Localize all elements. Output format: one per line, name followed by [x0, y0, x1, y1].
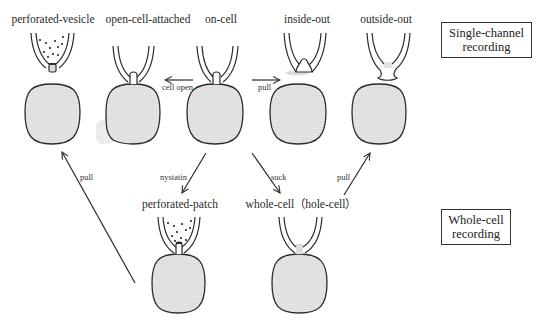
label-pull-top: pull — [258, 83, 271, 92]
single-channel-line2: recording — [446, 40, 527, 54]
cell-inside-out — [270, 84, 326, 144]
cell-perforated-patch — [152, 254, 205, 313]
label-on-cell: on-cell — [205, 14, 237, 26]
patch-clamp-configurations-diagram: perforated-vesicle open-cell-attached on… — [0, 0, 538, 329]
cell-on-cell — [187, 84, 243, 144]
cell-perforated-vesicle — [25, 84, 80, 144]
whole-cell-line1: Whole-cell — [446, 213, 506, 227]
pipette-whole-cell — [279, 217, 322, 254]
single-channel-line1: Single-channel — [446, 26, 527, 40]
cell-open-cell-attached — [96, 84, 160, 144]
label-pull-right: pull — [337, 173, 350, 182]
cell-whole-cell — [272, 254, 327, 313]
label-open-cell-attached: open-cell-attached — [106, 14, 191, 26]
label-cell-open: cell open — [162, 83, 193, 92]
label-outside-out: outside-out — [360, 14, 412, 26]
label-whole-cell: whole-cell（hole-cell） — [246, 199, 357, 211]
label-inside-out: inside-out — [284, 14, 330, 26]
label-pull-left: pull — [80, 173, 93, 182]
single-channel-recording-box: Single-channel recording — [441, 22, 532, 58]
label-perforated-vesicle: perforated-vesicle — [11, 14, 94, 26]
pipette-outside-out — [367, 33, 410, 80]
pipette-inside-out — [284, 33, 326, 76]
cell-outside-out — [352, 84, 406, 144]
whole-cell-recording-box: Whole-cell recording — [441, 209, 511, 245]
pipette-open-cell-attached — [113, 46, 154, 84]
label-perforated-patch: perforated-patch — [142, 199, 218, 211]
pipette-perforated-patch — [158, 217, 200, 254]
pipette-on-cell — [197, 46, 238, 84]
label-suck: suck — [271, 173, 287, 182]
pipette-perforated-vesicle — [31, 33, 74, 72]
label-nystatin: nystatin — [160, 173, 187, 182]
arrow-pull-perforated-vesicle — [62, 152, 135, 283]
whole-cell-line2: recording — [446, 227, 506, 241]
